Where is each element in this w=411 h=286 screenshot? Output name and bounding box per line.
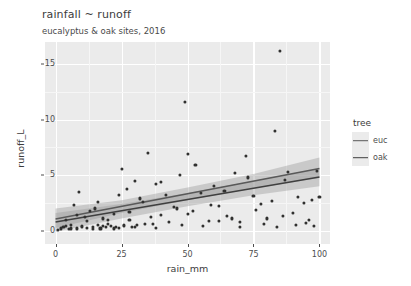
x-tick-label: 100 [304,250,334,259]
x-tick-label: 25 [107,250,137,259]
x-tick-mark [319,244,320,247]
y-axis-title: runoff_L [15,109,26,189]
y-tick-mark [41,230,44,231]
x-tick-label: 50 [173,250,203,259]
y-tick-label: 5 [50,170,55,179]
legend-key-line [353,157,368,159]
legend-key-line [353,140,368,142]
x-tick-label: 0 [41,250,71,259]
fit-line-euc [56,169,320,220]
chart-figure: rainfall ~ runoff eucalyptus & oak sites… [0,0,411,286]
legend-label: oak [373,153,387,162]
x-tick-mark [188,244,189,247]
legend-title: tree [352,118,408,128]
y-tick-mark [41,119,44,120]
chart-title: rainfall ~ runoff [42,8,131,21]
legend-key-euc [352,132,369,149]
y-tick-label: 15 [45,59,55,68]
y-tick-mark [41,175,44,176]
x-tick-mark [56,244,57,247]
legend: tree eucoak [352,118,408,166]
legend-label: euc [373,136,387,145]
y-tick-mark [41,64,44,65]
legend-item-euc[interactable]: euc [352,132,408,149]
x-tick-label: 75 [238,250,268,259]
y-tick-label: 10 [45,115,55,124]
legend-key-oak [352,149,369,166]
x-axis-title: rain_mm [45,263,330,274]
legend-entries: eucoak [352,132,408,166]
x-tick-mark [253,244,254,247]
plot-panel [45,42,330,244]
chart-subtitle: eucalyptus & oak sites, 2016 [42,26,165,36]
x-tick-mark [122,244,123,247]
legend-item-oak[interactable]: oak [352,149,408,166]
y-tick-label: 0 [50,226,55,235]
